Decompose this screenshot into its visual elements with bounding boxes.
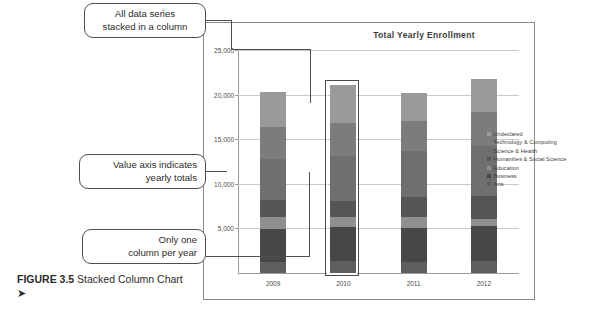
x-axis-tick-label: 2012 <box>477 280 491 287</box>
chart-container: Total Yearly Enrollment 5,00010,00015,00… <box>203 22 535 300</box>
figure-arrow-icon: ➤ <box>17 287 26 299</box>
bar-segment[interactable] <box>401 151 427 197</box>
legend-item-label: Technology & Computing <box>494 139 557 145</box>
callout-one-column-per-year: Only one column per year <box>82 229 206 264</box>
legend-item-label: Education <box>494 165 519 171</box>
legend-item-label: Business <box>494 173 517 179</box>
y-axis-tick-label: 10,000 <box>214 180 234 187</box>
legend-swatch-icon <box>487 166 491 170</box>
legend-swatch-icon <box>487 140 491 144</box>
callout-value-axis: Value axis indicates yearly totals <box>79 154 206 189</box>
legend-item[interactable]: Education <box>487 165 602 171</box>
bar-segment[interactable] <box>330 123 356 156</box>
bar-segment[interactable] <box>471 219 497 226</box>
bar-segment[interactable] <box>330 156 356 201</box>
legend-item[interactable]: Humanities & Social Science <box>487 156 602 162</box>
legend-swatch-icon <box>487 132 491 136</box>
y-axis-tick-mark <box>235 228 238 229</box>
bar-segment[interactable] <box>401 262 427 273</box>
bar-segment[interactable] <box>260 217 286 229</box>
legend-swatch-icon <box>487 157 491 161</box>
y-axis-tick-mark <box>235 95 238 96</box>
legend-swatch-icon <box>487 149 491 153</box>
x-axis <box>238 273 519 274</box>
bar-segment[interactable] <box>330 227 356 262</box>
legend-swatch-icon <box>487 174 491 178</box>
y-axis <box>238 50 239 274</box>
y-axis-tick-mark <box>235 139 238 140</box>
callout-leader-line-1b <box>231 20 232 50</box>
callout-all-data-series: All data series stacked in a column <box>84 3 206 38</box>
legend-item-label: Arts <box>494 181 504 187</box>
legend-item-label: Humanities & Social Science <box>494 156 567 162</box>
bar-segment[interactable] <box>471 261 497 273</box>
callout-line-2: stacked in a column <box>93 21 197 34</box>
bar-segment[interactable] <box>330 261 356 273</box>
bar-column[interactable]: 2009 <box>260 92 286 273</box>
legend-item-label: Science & Health <box>494 148 538 154</box>
callout-line-2: column per year <box>91 247 197 260</box>
bar-segment[interactable] <box>260 159 286 200</box>
callout-leader-line-3a <box>206 256 310 257</box>
bar-segment[interactable] <box>401 197 427 218</box>
bar-segment[interactable] <box>330 85 356 123</box>
x-axis-tick-label: 2011 <box>407 280 421 287</box>
chart-legend: UndeclaredTechnology & ComputingScience … <box>487 131 602 190</box>
callout-leader-line-3b <box>309 172 310 257</box>
y-axis-tick-label: 15,000 <box>214 136 234 143</box>
figure-label: FIGURE 3.5 <box>17 273 74 285</box>
bar-segment[interactable] <box>471 196 497 218</box>
bar-segment[interactable] <box>471 79 497 111</box>
figure-caption: FIGURE 3.5 Stacked Column Chart ➤ <box>17 272 192 300</box>
bar-segment[interactable] <box>260 92 286 127</box>
plot-area: 5,00010,00015,00020,00025,00020092010201… <box>238 50 519 274</box>
x-axis-tick-label: 2009 <box>266 280 280 287</box>
y-axis-tick-label: 20,000 <box>214 91 234 98</box>
x-axis-tick-label: 2010 <box>336 280 350 287</box>
callout-leader-line-1 <box>206 20 232 21</box>
legend-item[interactable]: Undeclared <box>487 131 602 137</box>
bar-segment[interactable] <box>260 262 286 273</box>
bar-segment[interactable] <box>260 127 286 159</box>
bar-segment[interactable] <box>260 229 286 262</box>
y-axis-tick-label: 5,000 <box>218 225 234 232</box>
bar-segment[interactable] <box>401 121 427 151</box>
callout-line-2: yearly totals <box>88 172 197 185</box>
callout-leader-line-1d <box>310 49 311 103</box>
callout-leader-line-1c <box>231 49 311 50</box>
legend-item[interactable]: Arts <box>487 181 602 187</box>
legend-item[interactable]: Business <box>487 173 602 179</box>
callout-line-1: All data series <box>93 8 197 21</box>
figure-caption-text: Stacked Column Chart <box>77 273 183 285</box>
callout-line-1: Value axis indicates <box>88 159 197 172</box>
y-axis-tick-mark <box>235 184 238 185</box>
legend-item-label: Undeclared <box>494 131 523 137</box>
chart-title: Total Yearly Enrollment <box>324 30 524 40</box>
callout-leader-line-2 <box>206 171 227 172</box>
bar-column[interactable]: 2010 <box>330 85 356 273</box>
legend-swatch-icon <box>487 182 491 186</box>
legend-item[interactable]: Technology & Computing <box>487 139 602 145</box>
bar-segment[interactable] <box>260 200 286 217</box>
bar-segment[interactable] <box>401 217 427 228</box>
legend-item[interactable]: Science & Health <box>487 148 602 154</box>
bar-segment[interactable] <box>401 228 427 262</box>
bar-column[interactable]: 2011 <box>401 93 427 273</box>
plot-inner: 5,00010,00015,00020,00025,00020092010201… <box>238 50 519 274</box>
bar-segment[interactable] <box>471 226 497 262</box>
callout-line-1: Only one <box>91 234 197 247</box>
bar-segment[interactable] <box>401 93 427 121</box>
bar-segment[interactable] <box>330 201 356 217</box>
bar-segment[interactable] <box>330 217 356 227</box>
